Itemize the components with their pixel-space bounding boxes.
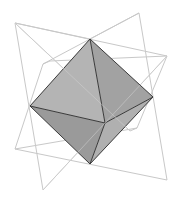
octahedron-diagram	[0, 0, 180, 208]
wire-edge	[90, 13, 139, 39]
diagram-canvas	[0, 0, 180, 208]
wire-edge	[43, 61, 50, 64]
wire-edge	[15, 23, 90, 39]
